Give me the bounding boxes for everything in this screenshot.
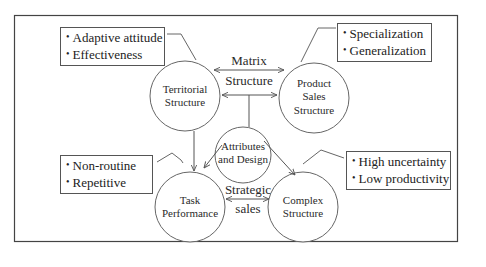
callout-item: •Generalization bbox=[343, 43, 427, 60]
bullet-icon: • bbox=[352, 172, 356, 183]
bullet-icon: • bbox=[66, 159, 70, 170]
bullet-icon: • bbox=[66, 176, 70, 187]
callout-item: •Specialization bbox=[343, 26, 427, 43]
node-attributes-label: Attributes and Design bbox=[213, 140, 273, 167]
callout-item: •Repetitive bbox=[66, 175, 148, 192]
callout-leader-task bbox=[157, 153, 183, 163]
node-task-performance-label: Task Performance bbox=[155, 194, 225, 221]
callout-leader-product-sales bbox=[301, 28, 336, 62]
callout-item: •Low productivity bbox=[352, 171, 446, 188]
bullet-icon: • bbox=[343, 44, 347, 55]
callout-leader-complex bbox=[303, 150, 344, 164]
callout-product-sales: •Specialization •Generalization bbox=[337, 23, 432, 62]
edge-matrix-label: Matrix Structure bbox=[214, 53, 284, 90]
callout-territorial: •Adaptive attitude •Effectiveness bbox=[60, 27, 165, 66]
callout-task-performance: •Non-routine •Repetitive bbox=[60, 155, 153, 194]
bullet-icon: • bbox=[352, 155, 356, 166]
node-product-sales-label: Product Sales Structure bbox=[279, 77, 349, 117]
callout-leader-territorial bbox=[167, 34, 196, 60]
callout-item: •Adaptive attitude bbox=[66, 30, 160, 47]
edge-strategic-sales-label: Strategic sales bbox=[216, 182, 280, 218]
callout-item: •Effectiveness bbox=[66, 47, 160, 64]
callout-complex: •High uncertainty •Low productivity bbox=[346, 151, 451, 190]
bullet-icon: • bbox=[343, 27, 347, 38]
node-territorial-label: Territorial Structure bbox=[150, 83, 220, 110]
bullet-icon: • bbox=[66, 31, 70, 42]
callout-item: •High uncertainty bbox=[352, 154, 446, 171]
bullet-icon: • bbox=[66, 48, 70, 59]
callout-item: •Non-routine bbox=[66, 158, 148, 175]
